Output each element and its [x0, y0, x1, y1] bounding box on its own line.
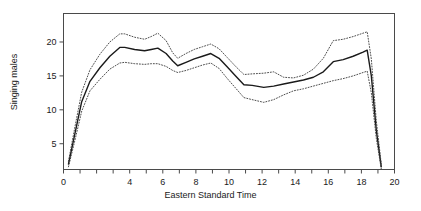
x-axis-ticks	[64, 170, 395, 174]
x-tick-label: 8	[193, 177, 198, 187]
x-tick-label: 12	[257, 177, 267, 187]
series-line-lower	[68, 62, 381, 168]
y-axis-title: Singing males	[9, 40, 19, 124]
x-tick-label: 4	[127, 177, 132, 187]
y-tick-label: 5	[51, 139, 56, 149]
chart-figure: 0468101214161820 5101520 Singing males E…	[0, 0, 421, 211]
chart-canvas: 0468101214161820 5101520	[0, 0, 421, 211]
x-axis-tick-labels: 0468101214161820	[61, 177, 400, 187]
y-tick-label: 20	[46, 37, 56, 47]
y-axis-tick-labels: 5101520	[46, 37, 56, 149]
y-tick-label: 10	[46, 105, 56, 115]
y-axis-ticks	[60, 42, 64, 144]
x-tick-label: 16	[323, 177, 333, 187]
data-series-group	[68, 32, 381, 169]
x-tick-label: 0	[61, 177, 66, 187]
x-tick-label: 6	[160, 177, 165, 187]
x-axis-title: Eastern Standard Time	[0, 190, 421, 200]
plot-frame	[64, 14, 395, 170]
plot-border	[64, 14, 395, 170]
y-tick-label: 15	[46, 71, 56, 81]
x-tick-label: 10	[224, 177, 234, 187]
x-tick-label: 18	[356, 177, 366, 187]
x-tick-label: 14	[290, 177, 300, 187]
x-tick-label: 20	[389, 177, 399, 187]
